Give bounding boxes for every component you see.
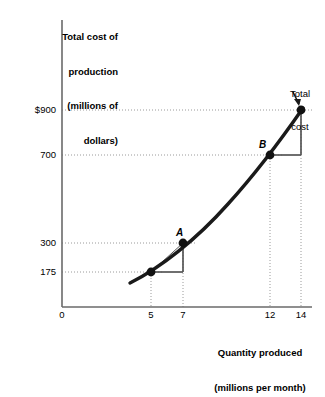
x-axis-title-line2: (millions per month) [196, 382, 324, 394]
y-tick-label-300: 300 [10, 238, 56, 248]
x-tick-label-5: 5 [140, 310, 162, 320]
data-point-start [147, 268, 156, 277]
point-label-B: B [259, 140, 266, 150]
data-point-B [266, 151, 275, 160]
x-tick-label-12: 12 [259, 310, 281, 320]
y-axis-title-line2: production [2, 66, 118, 78]
y-tick-label-175: 175 [10, 267, 56, 277]
point-label-A: A [176, 228, 183, 238]
y-axis-title-line4: dollars) [2, 135, 118, 147]
x-axis-title-line1: Quantity produced [196, 347, 324, 359]
total-cost-curve-label-line1: Total [278, 88, 322, 99]
x-tick-label-0: 0 [51, 310, 73, 320]
y-tick-label-900: $900 [10, 105, 56, 115]
x-tick-label-7: 7 [172, 310, 194, 320]
data-point-A [179, 239, 188, 248]
y-axis-title-line1: Total cost of [2, 31, 118, 43]
x-tick-label-14: 14 [290, 310, 312, 320]
y-axis-title: Total cost of production (millions of do… [2, 8, 118, 169]
y-tick-label-700: 700 [10, 150, 56, 160]
x-axis-title: Quantity produced (millions per month) [196, 324, 324, 397]
total-cost-curve-label-line2: cost [278, 121, 322, 132]
total-cost-curve-label: Total cost [278, 66, 322, 154]
